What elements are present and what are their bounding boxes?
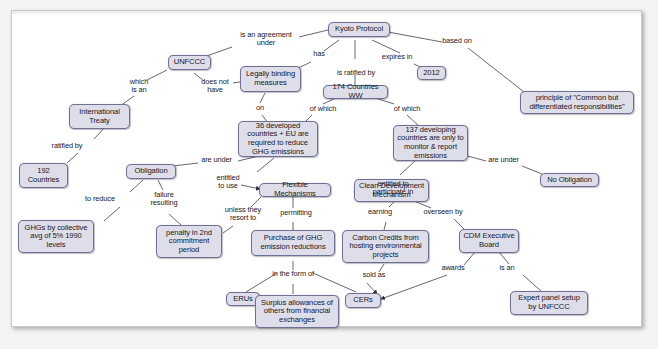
edge-label5-principle: [468, 48, 524, 92]
edge-label-is-an-expert: is an: [495, 264, 519, 272]
edge-label13-noobligation: [522, 166, 542, 174]
node-label: Obligation: [130, 167, 172, 176]
edge-label-permitting: permitting: [274, 209, 318, 217]
node-137-developing-countries[interactable]: 137 developing countries are only to mon…: [393, 125, 468, 161]
edge-label-are-under-right: are under: [482, 156, 525, 164]
edge-label-is-an-agreement-under: is an agreement under: [231, 31, 301, 48]
node-label: Flexible Mechanisms: [263, 181, 327, 198]
node-label: 2012: [421, 69, 442, 78]
node-cdm-executive-board[interactable]: CDM Executive Board: [459, 229, 519, 253]
node-174-countries-ww[interactable]: 174 Countries WW: [323, 85, 388, 99]
node-label: Carbon Credits from hosting environmenta…: [346, 234, 425, 260]
edge-legally-label8: [260, 93, 265, 103]
node-penalty-2nd-commitment[interactable]: penalty in 2nd commitment period: [156, 225, 222, 258]
node-label: Expert panel setup by UNFCCC: [514, 294, 584, 311]
edge-label-entitled-to-participate-in: entitled to participate in: [365, 180, 421, 197]
node-label: 192 Countries: [23, 167, 64, 184]
edge-label21-cdmboard: [454, 219, 464, 229]
node-label: Legally binding measures: [244, 70, 297, 87]
document-frame: Kyoto Protocol UNFCCC Legally binding me…: [11, 10, 642, 327]
node-no-obligation[interactable]: No Obligation: [540, 173, 599, 187]
edge-obligation-label17: [158, 180, 163, 190]
node-flexible-mechanisms[interactable]: Flexible Mechanisms: [259, 183, 331, 197]
concept-map-canvas[interactable]: Kyoto Protocol UNFCCC Legally binding me…: [12, 11, 643, 328]
node-label: CDM Executive Board: [463, 232, 515, 249]
node-label: CERs: [349, 296, 377, 305]
node-unfccc[interactable]: UNFCCC: [168, 55, 211, 70]
node-principle-common-differentiated[interactable]: principle of "Common but differentiated …: [520, 91, 634, 114]
node-2012[interactable]: 2012: [417, 66, 446, 80]
node-label: Kyoto Protocol: [332, 25, 386, 34]
edge-obligation-label16: [130, 180, 143, 192]
node-36-developed-countries[interactable]: 36 developed countries + EU are required…: [238, 121, 318, 157]
edge-label-entitled-to-use: entitled to use: [211, 174, 245, 191]
node-label: 174 Countries WW: [327, 83, 384, 100]
node-legally-binding-measures[interactable]: Legally binding measures: [240, 66, 301, 92]
edge-layer: [12, 11, 643, 328]
edge-kyoto-label1: [299, 30, 328, 37]
edge-label-expires-in: expires in: [377, 53, 417, 61]
edge-label-does-not-have: does not have: [196, 78, 234, 95]
edge-label-which-is-an: which is an: [126, 78, 152, 95]
node-label: 137 developing countries are only to mon…: [397, 126, 464, 160]
screenshot-root: Kyoto Protocol UNFCCC Legally binding me…: [0, 0, 658, 349]
edge-label-overseen-by: overseen by: [418, 208, 468, 216]
node-purchase-ghg-emission-reductions[interactable]: Purchase of GHG emission reductions: [251, 230, 335, 256]
node-label: UNFCCC: [172, 58, 207, 67]
edge-label-of-which-left: of which: [305, 105, 341, 113]
edge-label-sold-as: sold as: [357, 271, 391, 279]
node-surplus-allowances[interactable]: Surplus allowances of others from financ…: [255, 295, 339, 328]
edge-label16-ghgs: [104, 207, 120, 221]
edge-label-to-reduce: to reduce: [79, 195, 121, 203]
node-label: Purchase of GHG emission reductions: [255, 234, 331, 251]
node-label: Surplus allowances of others from financ…: [259, 299, 335, 325]
edge-label-earning: earning: [362, 208, 398, 216]
edge-label-based-on: based on: [440, 37, 474, 45]
edge-label-unless-they-resort-to: unless they resort to: [217, 206, 269, 223]
edge-dev137-label15: [400, 159, 417, 175]
edge-label-has: has: [309, 50, 329, 58]
edge-label-in-the-form-of: in the form of: [262, 270, 324, 278]
node-expert-panel-setup[interactable]: Expert panel setup by UNFCCC: [510, 291, 588, 315]
edge-kyoto-label5: [388, 32, 442, 42]
edge-label25-expert: [523, 275, 541, 291]
node-label: principle of "Common but differentiated …: [524, 94, 630, 111]
node-label: GHGs by collective avg of 5% 1990 levels: [22, 224, 90, 250]
node-ghgs-collective-avg[interactable]: GHGs by collective avg of 5% 1990 levels: [18, 220, 94, 253]
node-kyoto-protocol[interactable]: Kyoto Protocol: [328, 22, 390, 37]
edge-label-awards: awards: [436, 264, 470, 272]
edge-label18-penalty: [223, 226, 233, 233]
node-label: No Obligation: [544, 176, 595, 185]
edge-label-are-under-left: are under: [195, 156, 238, 164]
node-obligation[interactable]: Obligation: [126, 164, 176, 179]
node-international-treaty[interactable]: International Treaty: [69, 104, 130, 129]
node-cers[interactable]: CERs: [345, 293, 381, 308]
edge-label-is-ratified-by: is ratified by: [330, 69, 382, 77]
edge-label-failure-resulting: failure resulting: [145, 191, 183, 208]
edge-label-on: on: [252, 104, 268, 112]
node-carbon-credits[interactable]: Carbon Credits from hosting environmenta…: [342, 230, 429, 263]
node-label: penalty in 2nd commitment period: [160, 229, 218, 255]
edge-label-ratified-by: ratified by: [42, 142, 92, 150]
edge-dev36-label14: [257, 158, 274, 172]
edge-label20-credits: [384, 222, 386, 230]
edge-label11-192: [67, 153, 78, 163]
node-label: 36 developed countries + EU are required…: [242, 122, 314, 156]
node-label: ERUs: [230, 295, 256, 304]
node-label: International Treaty: [73, 108, 126, 125]
node-192-countries[interactable]: 192 Countries: [19, 163, 68, 188]
edge-label-of-which-right: of which: [389, 105, 425, 113]
